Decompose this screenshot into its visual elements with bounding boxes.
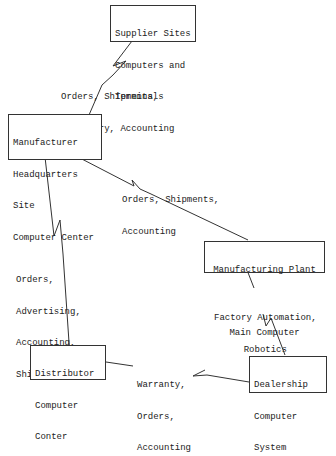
node-line: Computers and — [115, 61, 191, 72]
node-dealership: Dealership Computer System — [249, 356, 327, 393]
link-label-distributor-dealership: Warranty, Orders, Accounting — [137, 359, 191, 456]
link-label-hq-plant: Orders, Shipments, Accounting — [122, 174, 219, 248]
node-manufacturer-hq: Manufacturer Headquarters Site Computer … — [8, 114, 102, 160]
node-manufacturing-plant: Manufacturing Plant Main Computer — [204, 241, 325, 273]
link-distributor-dealership — [106, 362, 133, 366]
link-label-plant-dealership: Factory Automation, Robotics — [214, 292, 317, 366]
node-line: Supplier Sites — [115, 29, 191, 40]
link-distributor-dealership-b — [193, 370, 249, 382]
node-supplier-sites: Supplier Sites Computers and Terminals — [110, 5, 196, 42]
node-distributor: Distributor Computer Conter — [30, 345, 106, 380]
